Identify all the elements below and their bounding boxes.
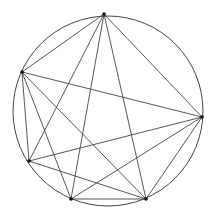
edge-D-F: [29, 161, 146, 199]
edges-group: [22, 14, 202, 199]
edge-B-E: [22, 72, 71, 199]
edge-B-F: [22, 72, 146, 199]
edge-C-E: [71, 117, 202, 199]
edge-A-D: [29, 14, 104, 161]
edge-A-E: [71, 14, 104, 199]
circumscribed-circle: [13, 16, 203, 206]
vertex-E: [69, 197, 73, 201]
vertex-D: [27, 159, 31, 163]
edge-B-D: [22, 72, 29, 161]
vertices-group: [20, 12, 204, 201]
vertex-F: [144, 197, 148, 201]
edge-B-C: [22, 72, 202, 117]
edge-A-F: [104, 14, 146, 199]
edge-A-B: [22, 14, 104, 72]
vertex-B: [20, 70, 24, 74]
vertex-A: [102, 12, 106, 16]
inscribed-graph-diagram: [0, 0, 215, 219]
vertex-C: [200, 115, 204, 119]
edge-A-C: [104, 14, 202, 117]
